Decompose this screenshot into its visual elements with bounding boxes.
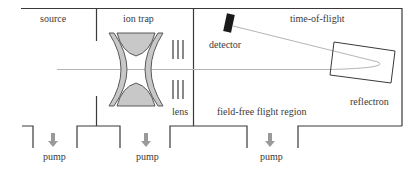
label-pump-1: pump bbox=[43, 152, 66, 162]
label-reflectron: reflectron bbox=[350, 97, 389, 107]
label-detector: detector bbox=[209, 40, 241, 50]
region-label-source: source bbox=[40, 14, 66, 24]
region-label-time-of-flight: time-of-flight bbox=[290, 14, 344, 24]
region-label-ion-trap: ion trap bbox=[123, 14, 154, 24]
label-pump-3: pump bbox=[260, 152, 283, 162]
label-lens: lens bbox=[172, 107, 188, 117]
diagram-graphics bbox=[0, 0, 420, 171]
reflectron-icon bbox=[330, 42, 395, 83]
pump-arrows bbox=[48, 133, 275, 147]
label-pump-2: pump bbox=[136, 152, 159, 162]
pump-arrow-icon-3 bbox=[265, 133, 275, 147]
label-field-free-flight-region: field-free flight region bbox=[217, 107, 306, 117]
vacuum-chamber-walls bbox=[21, 8, 402, 148]
mass-spectrometer-diagram: source ion trap time-of-flight detector … bbox=[0, 0, 420, 171]
pump-arrow-icon-2 bbox=[141, 133, 151, 147]
detector-icon bbox=[223, 13, 235, 32]
pump-arrow-icon-1 bbox=[48, 133, 58, 147]
